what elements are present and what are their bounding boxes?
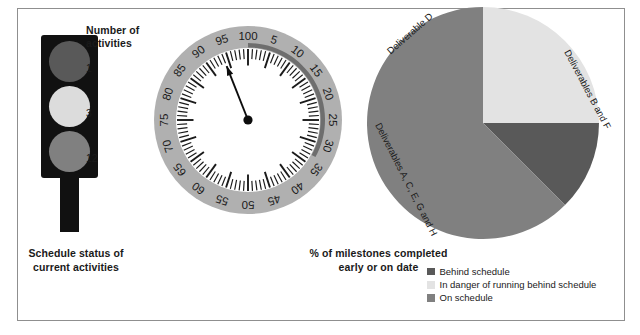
legend-label-on-schedule: On schedule (440, 291, 493, 304)
figure-root: Number of activities 1 3 12 Schedule sta… (0, 0, 640, 335)
legend-label-in-danger: In danger of running behind schedule (440, 278, 597, 291)
gauge-tick-minor (177, 124, 187, 125)
activities-count-on-schedule: 12 (86, 152, 98, 164)
gauge-tick-minor (309, 124, 319, 125)
traffic-light-caption-line2: current activities (33, 261, 119, 273)
gauge-center-hub (243, 115, 252, 124)
gauge-tick-minor (309, 116, 319, 117)
gauge-scale-label: 50 (242, 199, 255, 211)
activities-count-heading-line1: Number of (86, 24, 139, 36)
gauge-panel: 5101520253035404550556065707580859095100… (143, 0, 358, 313)
gauge-tick-minor (252, 49, 253, 59)
traffic-light-panel: Number of activities 1 3 12 Schedule sta… (0, 0, 150, 313)
legend-item-in-danger: In danger of running behind schedule (427, 278, 596, 291)
gauge-svg: 5101520253035404550556065707580859095100 (143, 0, 358, 240)
gauge-scale-label: 100 (238, 30, 257, 42)
activities-count-in-danger: 3 (86, 107, 92, 119)
activities-count-behind-schedule: 1 (86, 62, 92, 74)
gauge-scale-label: 75 (158, 114, 170, 127)
pie-svg: Deliverable DDeliverables B and FDeliver… (352, 0, 608, 260)
traffic-lamp-in-danger (49, 86, 90, 127)
gauge-tick-minor (244, 49, 245, 59)
legend-swatch-in-danger (427, 281, 435, 289)
legend-label-behind-schedule: Behind schedule (440, 265, 510, 278)
gauge-tick-minor (252, 181, 253, 191)
legend-swatch-on-schedule (427, 294, 435, 302)
traffic-light-pole (60, 176, 79, 232)
traffic-light-caption: Schedule status of current activities (2, 247, 150, 274)
activities-count-heading-line2: activities (86, 37, 132, 49)
traffic-lamp-behind-schedule (49, 41, 90, 82)
pie-panel: Deliverable DDeliverables B and FDeliver… (352, 0, 608, 313)
pie-legend: Behind schedule In danger of running beh… (427, 265, 596, 305)
traffic-lamp-on-schedule (49, 131, 90, 172)
traffic-light-caption-line1: Schedule status of (28, 247, 123, 259)
gauge-scale-label: 25 (327, 114, 339, 127)
legend-swatch-behind-schedule (427, 268, 435, 276)
gauge-tick-minor (177, 116, 187, 117)
legend-item-on-schedule: On schedule (427, 291, 596, 304)
gauge-tick-minor (244, 181, 245, 191)
legend-item-behind-schedule: Behind schedule (427, 265, 596, 278)
